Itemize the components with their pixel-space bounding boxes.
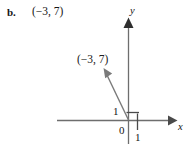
- y-tick-label: 1: [113, 105, 119, 117]
- x-axis-arrowhead: [168, 116, 178, 126]
- y-axis-label: y: [130, 5, 135, 16]
- origin-label: 0: [119, 124, 125, 136]
- x-axis-label: x: [178, 121, 183, 132]
- point-label: (−3, 7): [77, 53, 108, 65]
- y-axis-arrowhead: [124, 18, 134, 29]
- coordinate-plane-svg: [0, 0, 194, 155]
- figure-panel: b. (−3, 7) (−3, 7) y x 1 1 0: [0, 0, 194, 155]
- x-tick-label: 1: [135, 131, 141, 143]
